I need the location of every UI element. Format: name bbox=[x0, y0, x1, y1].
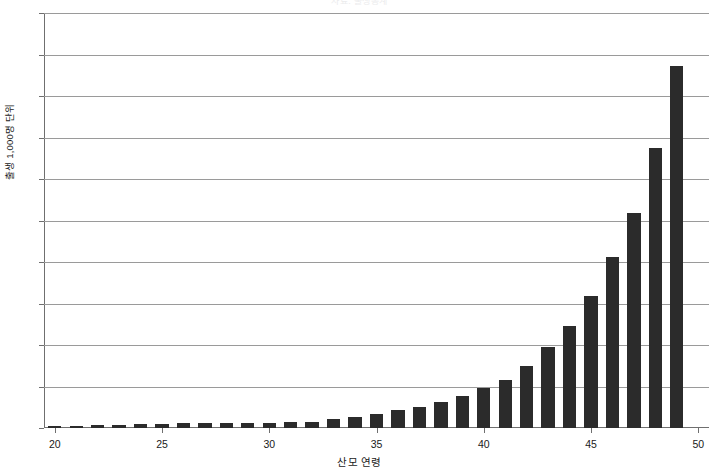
x-tick-label: 20 bbox=[35, 438, 75, 450]
y-tick-mark bbox=[39, 387, 44, 388]
x-tick-label: 25 bbox=[142, 438, 182, 450]
gridline bbox=[44, 96, 709, 97]
plot-area: 0102030405060708090100 20253035404550 bbox=[44, 13, 709, 428]
y-axis-label: 출생 1,000명 단위 bbox=[2, 60, 16, 180]
x-tick-label: 45 bbox=[571, 438, 611, 450]
x-tick-mark bbox=[162, 428, 163, 433]
y-tick-mark bbox=[39, 13, 44, 14]
bar bbox=[305, 422, 318, 428]
y-tick-mark bbox=[39, 262, 44, 263]
bar bbox=[284, 422, 297, 428]
bar bbox=[413, 407, 426, 428]
y-tick-mark bbox=[39, 138, 44, 139]
bar bbox=[499, 380, 512, 428]
bar bbox=[477, 388, 490, 428]
bar bbox=[220, 423, 233, 428]
x-axis-label: 산모 연령 bbox=[0, 454, 719, 469]
gridline bbox=[44, 55, 709, 56]
gridline bbox=[44, 221, 709, 222]
bar bbox=[241, 423, 254, 428]
x-tick-label: 30 bbox=[249, 438, 289, 450]
bar bbox=[584, 296, 597, 428]
bar bbox=[370, 414, 383, 428]
bar bbox=[606, 257, 619, 428]
x-tick-label: 35 bbox=[357, 438, 397, 450]
x-tick-mark bbox=[698, 428, 699, 433]
y-tick-mark bbox=[39, 428, 44, 429]
bar bbox=[91, 425, 104, 428]
y-tick-mark bbox=[39, 345, 44, 346]
bar bbox=[198, 423, 211, 428]
bar bbox=[456, 396, 469, 428]
bar bbox=[627, 213, 640, 428]
bar bbox=[112, 425, 125, 428]
y-tick-mark bbox=[39, 55, 44, 56]
x-tick-label: 50 bbox=[678, 438, 718, 450]
bar bbox=[327, 419, 340, 428]
bar bbox=[177, 423, 190, 428]
bar bbox=[520, 366, 533, 428]
bar bbox=[563, 326, 576, 429]
x-tick-label: 40 bbox=[464, 438, 504, 450]
gridline bbox=[44, 138, 709, 139]
chart-figure: 자료: 출생통계 출생 1,000명 단위 010203040506070809… bbox=[0, 0, 719, 475]
bar bbox=[391, 410, 404, 428]
bar bbox=[649, 148, 662, 428]
bar bbox=[541, 347, 554, 428]
y-tick-mark bbox=[39, 179, 44, 180]
gridline bbox=[44, 179, 709, 180]
y-tick-mark bbox=[39, 96, 44, 97]
x-tick-mark bbox=[269, 428, 270, 433]
bar bbox=[134, 424, 147, 428]
gridline bbox=[44, 13, 709, 14]
y-tick-mark bbox=[39, 304, 44, 305]
bar bbox=[348, 417, 361, 428]
x-tick-mark bbox=[377, 428, 378, 433]
x-tick-mark bbox=[55, 428, 56, 433]
x-tick-mark bbox=[591, 428, 592, 433]
y-tick-mark bbox=[39, 221, 44, 222]
chart-title: 자료: 출생통계 bbox=[0, 0, 719, 6]
x-tick-mark bbox=[484, 428, 485, 433]
bar bbox=[434, 402, 447, 428]
bar bbox=[70, 426, 83, 428]
bar bbox=[670, 66, 683, 428]
